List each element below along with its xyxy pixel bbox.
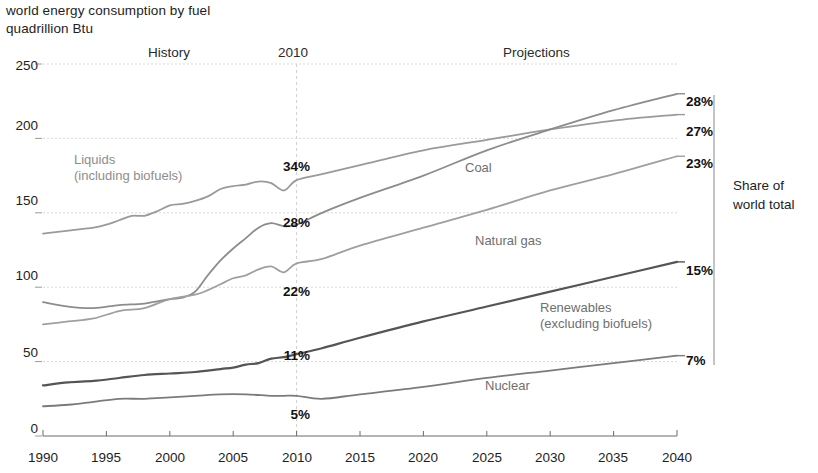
x-tick-2025: 2025 (472, 450, 502, 465)
x-tick-2030: 2030 (535, 450, 565, 465)
x-tick-1990: 1990 (28, 450, 58, 465)
share-note-line-2: world total (733, 195, 795, 214)
chart-container: world energy consumption by fuel quadril… (0, 0, 818, 473)
x-tick-2000: 2000 (155, 450, 185, 465)
x-tick-2005: 2005 (218, 450, 248, 465)
share-2010-renewables: 11% (284, 348, 310, 363)
y-tick-0: 0 (2, 421, 38, 436)
share-2040-renewables: 15% (686, 263, 713, 278)
series-label-renewables-line1: Renewables (540, 300, 652, 316)
series-line-coal (43, 94, 677, 308)
series-label-liquids-line2: (including biofuels) (74, 168, 182, 184)
x-tick-2010: 2010 (282, 450, 312, 465)
series-label-liquids-line1: Liquids (74, 152, 182, 168)
share-2010-nuclear: 5% (290, 407, 310, 422)
y-tick-200: 200 (2, 118, 38, 133)
share-2010-natural-gas: 22% (283, 284, 310, 299)
share-of-world-total-note: Share of world total (733, 176, 795, 214)
share-2040-liquids: 27% (686, 124, 713, 139)
x-tick-2015: 2015 (345, 450, 375, 465)
series-label-nuclear: Nuclear (485, 378, 530, 394)
share-2010-liquids: 34% (283, 159, 310, 174)
x-tick-1995: 1995 (91, 450, 121, 465)
y-tick-50: 50 (2, 345, 38, 360)
y-tick-150: 150 (2, 193, 38, 208)
share-2040-coal: 28% (686, 94, 713, 109)
y-tick-100: 100 (2, 268, 38, 283)
plot-area (0, 0, 818, 473)
y-tick-250: 250 (2, 58, 38, 73)
series-label-liquids: Liquids (including biofuels) (74, 152, 182, 184)
x-tick-2035: 2035 (598, 450, 628, 465)
share-2010-coal: 28% (283, 215, 310, 230)
series-label-coal: Coal (465, 160, 492, 176)
share-2040-natural-gas: 23% (686, 156, 713, 171)
series-line-nuclear (43, 356, 677, 407)
x-tick-2020: 2020 (408, 450, 438, 465)
share-2040-nuclear: 7% (686, 353, 706, 368)
series-label-renewables: Renewables (excluding biofuels) (540, 300, 652, 332)
x-tick-2040: 2040 (662, 450, 692, 465)
series-label-renewables-line2: (excluding biofuels) (540, 316, 652, 332)
series-label-natural-gas: Natural gas (475, 233, 541, 249)
share-note-line-1: Share of (733, 176, 795, 195)
